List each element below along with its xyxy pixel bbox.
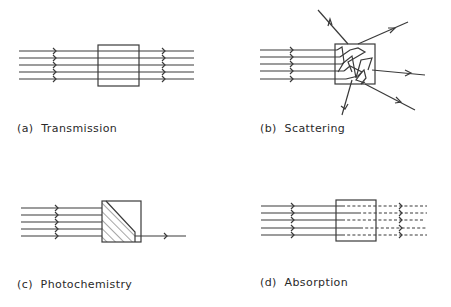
attenuated-rays <box>342 206 427 235</box>
panel-a-transmission-diagram <box>19 45 194 86</box>
panel-a-label: (a) Transmission <box>17 122 117 135</box>
panel-b-scattering-diagram <box>260 10 425 115</box>
panel-c-photochemistry-diagram <box>21 201 186 242</box>
hatched-reaction-region <box>102 201 136 242</box>
incident-rays <box>21 208 102 236</box>
panel-c-label: (c) Photochemistry <box>17 278 132 291</box>
scattered-rays <box>318 10 425 115</box>
incident-rays <box>260 50 346 79</box>
light-matter-interaction-figure: (a) Transmission (b) Scattering (c) Phot… <box>0 0 451 307</box>
incident-rays <box>261 206 360 235</box>
panel-d-label: (d) Absorption <box>260 276 348 289</box>
panel-d-absorption-diagram <box>261 200 427 241</box>
panel-b-label: (b) Scattering <box>260 122 345 135</box>
